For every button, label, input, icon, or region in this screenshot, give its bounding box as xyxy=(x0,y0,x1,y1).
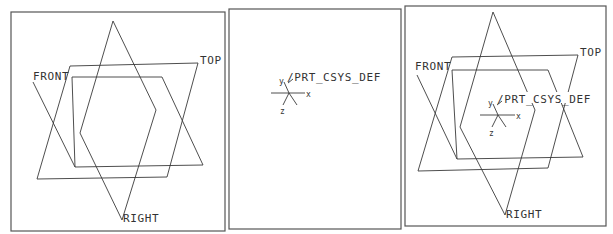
csys-z-label: z xyxy=(489,129,494,138)
csys-x-label: x xyxy=(306,90,311,99)
csys-label: /PRT_CSYS_DEF xyxy=(497,93,591,106)
panel-2-frame xyxy=(229,9,401,229)
panel-datum-planes: FRONT TOP RIGHT xyxy=(11,12,225,231)
panel-1-frame xyxy=(11,12,225,231)
csys-x-label: x xyxy=(516,112,521,121)
right-label: RIGHT xyxy=(123,212,159,225)
csys-z-label: z xyxy=(280,107,285,116)
panel-combined: y x z /PRT_CSYS_DEF FRONT TOP RIGHT xyxy=(405,6,606,226)
top-label: TOP xyxy=(580,46,602,59)
csys-y-label: y xyxy=(279,77,284,86)
panel-3-frame xyxy=(405,6,606,226)
top-label: TOP xyxy=(200,54,222,67)
csys-label: /PRT_CSYS_DEF xyxy=(287,71,381,84)
csys-y-label: y xyxy=(488,99,493,108)
front-label: FRONT xyxy=(33,70,69,83)
right-label: RIGHT xyxy=(506,208,542,221)
panel-coordinate-system: y x z /PRT_CSYS_DEF xyxy=(229,9,401,229)
front-label: FRONT xyxy=(415,60,451,73)
figure-canvas: FRONT TOP RIGHT y x z /PRT_CSYS_DEF xyxy=(0,0,613,234)
